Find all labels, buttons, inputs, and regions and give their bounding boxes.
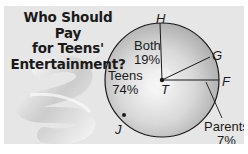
slice-label-teens: Teens 74%	[108, 69, 143, 97]
chart-panel: Who Should Pay for Teens' Entertainment?…	[4, 6, 244, 144]
point-label-H: H	[156, 11, 165, 26]
point-J	[122, 113, 126, 117]
chart-title: Who Should Pay for Teens' Entertainment?	[10, 10, 126, 72]
slice-label-both: Both 19%	[134, 39, 161, 67]
title-line-1: Who Should Pay	[10, 10, 126, 41]
point-label-J: J	[115, 122, 122, 137]
parents-value: 7%	[204, 134, 244, 144]
title-line-2: for Teens'	[10, 41, 126, 57]
both-name: Both	[134, 39, 161, 53]
parents-name: Parents	[204, 120, 244, 134]
point-label-T: T	[161, 82, 169, 97]
both-value: 19%	[134, 53, 161, 67]
teens-value: 74%	[108, 83, 143, 97]
ribbon-decoration	[25, 64, 90, 137]
teens-name: Teens	[108, 69, 143, 83]
slice-label-parents: Parents 7%	[204, 120, 244, 144]
point-label-G: G	[212, 48, 222, 63]
point-label-F: F	[222, 74, 230, 89]
